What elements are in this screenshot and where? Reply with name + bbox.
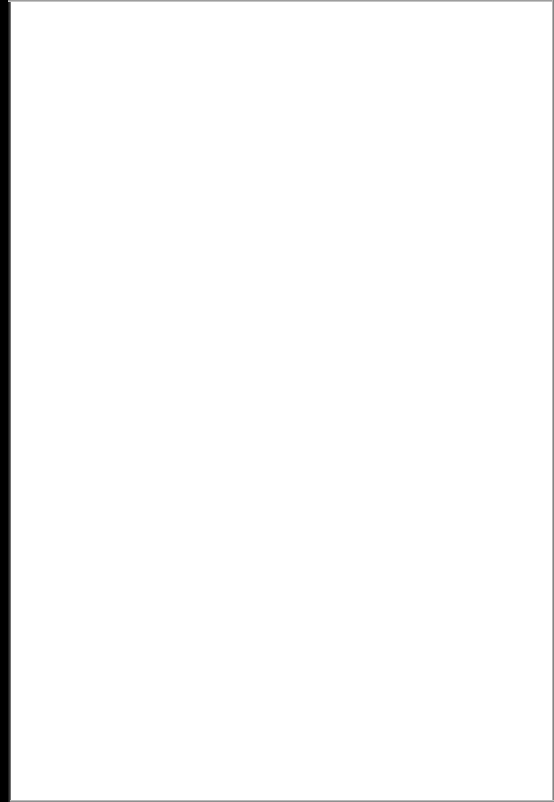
blank-paper-area — [11, 2, 552, 800]
scanned-page — [0, 0, 554, 802]
